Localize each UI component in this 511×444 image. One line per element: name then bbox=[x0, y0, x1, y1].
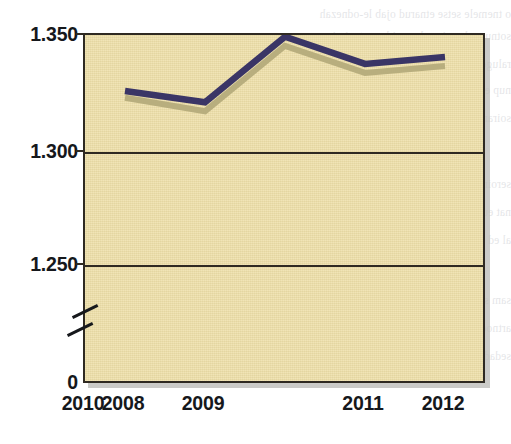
y-axis-tick-1350 bbox=[76, 33, 85, 35]
x-tick-label-2009: 2009 bbox=[165, 392, 241, 415]
x-tick-label-2010: 2010 bbox=[45, 392, 121, 415]
y-axis: 1.350 1.300 1.250 0 bbox=[0, 0, 78, 444]
y-tick-label-1300: 1.300 bbox=[2, 140, 78, 163]
x-tick-label-2012: 2012 bbox=[405, 392, 481, 415]
y-axis-break-marker bbox=[70, 300, 100, 348]
y-tick-label-1350: 1.350 bbox=[2, 23, 78, 46]
plot-area bbox=[83, 33, 485, 383]
axis-break-slash-upper bbox=[72, 304, 98, 319]
y-axis-tick-1250 bbox=[76, 263, 85, 265]
x-tick-label-2011: 2011 bbox=[325, 392, 401, 415]
series-lines-svg bbox=[85, 35, 483, 381]
line-chart-figure: 1.350 1.300 1.250 0 2008 2009 2010 2011 … bbox=[0, 0, 511, 444]
axis-break-slash-lower bbox=[67, 322, 93, 337]
y-tick-label-1250: 1.250 bbox=[2, 253, 78, 276]
y-axis-tick-1300 bbox=[76, 150, 85, 152]
x-axis: 2008 2009 2010 2011 2012 bbox=[83, 392, 485, 426]
series-light-line bbox=[125, 46, 445, 112]
y-tick-label-0: 0 bbox=[2, 371, 78, 394]
